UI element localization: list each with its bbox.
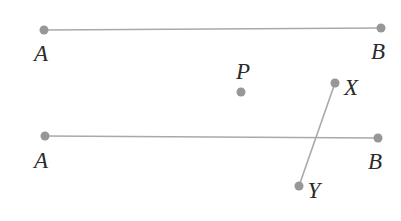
point-label-A-top: A [32, 41, 49, 66]
point-label-A-bottom: A [32, 148, 49, 173]
geometry-diagram: ABPXABY [0, 0, 401, 221]
point-label-B-top: B [371, 39, 385, 64]
point-dot-A-top [40, 26, 49, 35]
diagram-canvas: ABPXABY [0, 0, 401, 221]
point-dot-P [237, 88, 246, 97]
point-dot-Y [295, 182, 304, 191]
point-dot-B-top [377, 24, 386, 33]
point-dot-B-bottom [374, 134, 383, 143]
point-dot-A-bottom [41, 132, 50, 141]
segment-ab-bottom [45, 136, 378, 138]
point-label-X: X [343, 75, 359, 100]
point-label-B-bottom: B [368, 149, 382, 174]
segment-xy [299, 83, 335, 186]
point-label-P: P [235, 59, 250, 84]
point-label-Y: Y [308, 178, 323, 203]
segment-ab-top [44, 28, 381, 30]
point-dot-X [331, 79, 340, 88]
